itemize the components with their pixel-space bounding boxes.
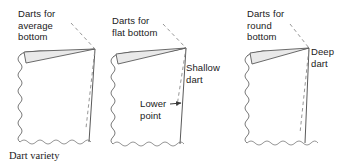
left-wavy-edge-panel-round (245, 56, 249, 143)
figure-caption: Dart variety (9, 150, 59, 162)
figure-dart-variety: Darts for average bottom Darts for flat … (0, 0, 346, 167)
panel-flat-bottom (111, 24, 186, 146)
label-darts-for-flat-bottom: Darts for flat bottom (112, 15, 157, 38)
right-seam-panel-average (89, 49, 95, 142)
label-shallow-dart: Shallow dart (186, 62, 220, 85)
lower-point-arrow (170, 103, 181, 104)
label-deep-dart: Deep dart (311, 46, 334, 69)
bottom-wavy-edge-panel-flat (113, 142, 184, 146)
dart-wedge-panel-round (250, 48, 309, 64)
dart-dashed-line-panel-flat (163, 24, 186, 106)
bottom-wavy-edge-panel-average (20, 140, 91, 144)
left-wavy-edge-panel-average (18, 55, 22, 142)
right-seam-panel-round (305, 48, 309, 143)
dart-wedge-panel-flat (116, 48, 186, 64)
label-lower-point: Lower point (140, 98, 166, 121)
dart-wedge-panel-average (24, 49, 95, 63)
left-wavy-edge-panel-flat (111, 57, 115, 144)
bottom-wavy-edge-panel-round (247, 141, 318, 145)
label-darts-for-round-bottom: Darts for round bottom (247, 8, 284, 43)
label-darts-for-average-bottom: Darts for average bottom (18, 8, 55, 43)
